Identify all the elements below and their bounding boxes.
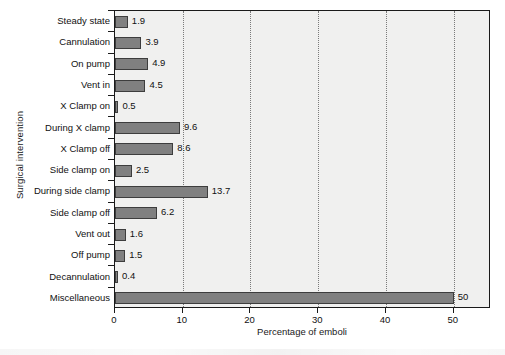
x-axis-tick-label: 0 (111, 314, 116, 325)
gridline-40 (386, 11, 387, 307)
x-axis-tick-0 (114, 308, 115, 313)
x-axis-tick-label: 40 (380, 314, 391, 325)
bar (115, 143, 173, 155)
bar (115, 186, 208, 198)
y-axis-tick (108, 138, 114, 139)
category-label: Side clamp on (18, 164, 110, 175)
bar (115, 292, 454, 304)
bar (115, 207, 157, 219)
y-axis-tick (108, 244, 114, 245)
y-axis-tick (108, 287, 114, 288)
x-axis-tick-30 (317, 308, 318, 313)
gridline-50 (454, 11, 455, 307)
category-label: X Clamp off (18, 143, 110, 154)
x-axis-tick-20 (249, 308, 250, 313)
gridline-20 (250, 11, 251, 307)
bar (115, 37, 141, 49)
y-axis-ticks (108, 10, 116, 308)
category-label: Cannulation (18, 36, 110, 47)
y-axis-tick (108, 95, 114, 96)
y-axis-tick (108, 180, 114, 181)
y-axis-tick (108, 10, 114, 11)
bar (115, 58, 148, 70)
category-label: Steady state (18, 15, 110, 26)
gridline-30 (318, 11, 319, 307)
bar (115, 80, 145, 92)
x-axis-tick-40 (385, 308, 386, 313)
bar (115, 122, 180, 134)
y-axis-tick (108, 223, 114, 224)
bar (115, 250, 125, 262)
x-axis-tick-label: 20 (244, 314, 255, 325)
bar (115, 165, 132, 177)
x-axis-tick-10 (182, 308, 183, 313)
category-label: During X clamp (18, 122, 110, 133)
bar-chart-figure: Surgical intervention Steady stateCannul… (0, 0, 505, 355)
scan-artifact (0, 349, 505, 355)
category-label: On pump (18, 58, 110, 69)
category-label: Vent in (18, 79, 110, 90)
y-axis-tick (108, 159, 114, 160)
category-label: Vent out (18, 228, 110, 239)
x-axis-title: Percentage of emboli (114, 326, 490, 337)
plot-area (114, 10, 490, 308)
category-label: Side clamp off (18, 207, 110, 218)
bar (115, 16, 128, 28)
category-label: During side clamp (18, 185, 110, 196)
y-axis-tick (108, 31, 114, 32)
x-axis-tick-label: 30 (312, 314, 323, 325)
y-axis-category-labels: Steady stateCannulationOn pumpVent inX C… (18, 10, 110, 308)
y-axis-tick (108, 202, 114, 203)
bar (115, 229, 126, 241)
category-label: Decannulation (18, 271, 110, 282)
y-axis-tick (108, 74, 114, 75)
x-axis-tick-label: 50 (447, 314, 458, 325)
x-axis-tick-50 (453, 308, 454, 313)
category-label: X Clamp on (18, 100, 110, 111)
category-label: Miscellaneous (18, 292, 110, 303)
y-axis-tick (108, 116, 114, 117)
category-label: Off pump (18, 249, 110, 260)
x-axis-tick-label: 10 (176, 314, 187, 325)
gridline-10 (183, 11, 184, 307)
y-axis-tick (108, 265, 114, 266)
y-axis-tick (108, 53, 114, 54)
